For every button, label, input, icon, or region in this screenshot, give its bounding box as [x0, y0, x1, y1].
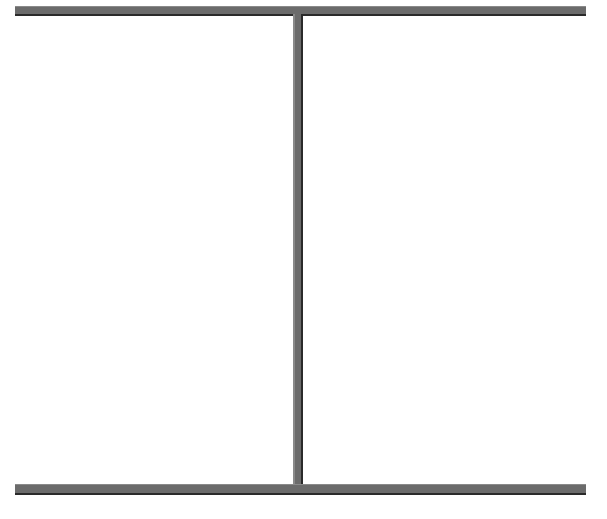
bottom-bar — [15, 484, 586, 495]
vertical-divider — [293, 14, 303, 486]
left-panel — [15, 16, 293, 484]
right-panel — [303, 16, 586, 484]
